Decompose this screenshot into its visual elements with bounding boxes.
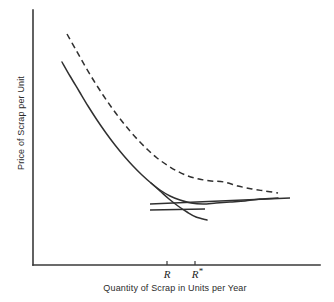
x-tick-star-2: * (199, 266, 204, 276)
x-axis-tick-labels: RR* (163, 266, 204, 280)
lower-tangent-line (150, 209, 205, 210)
dashed-average-cost-curve (67, 34, 278, 193)
y-axis-title: Price of Scrap per Unit (16, 76, 26, 170)
solid-average-cost-curve (62, 62, 278, 204)
x-axis-title: Quantity of Scrap in Units per Year (103, 283, 246, 293)
x-tick-label-2: R (191, 268, 199, 280)
chart-container: RR* Price of Scrap per Unit Quantity of … (0, 0, 334, 302)
x-tick-label-1: R (163, 268, 171, 280)
chart-canvas: RR* Price of Scrap per Unit Quantity of … (0, 0, 334, 302)
